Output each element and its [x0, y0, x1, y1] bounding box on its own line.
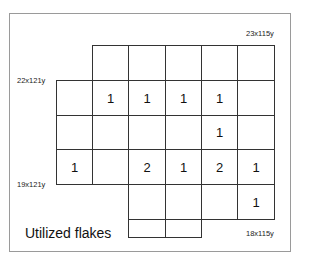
grid-cell [128, 45, 166, 81]
grid-cell: 1 [237, 149, 275, 185]
grid-cell [201, 184, 238, 220]
grid-cell [92, 149, 129, 185]
grid-cell [128, 184, 166, 220]
diagram-title: Utilized flakes [25, 225, 111, 241]
grid-cell: 1 [128, 80, 166, 116]
grid-cell: 1 [201, 80, 238, 116]
grid-cell [201, 45, 238, 81]
grid-cell: 1 [201, 115, 238, 150]
partial-grid-cell [165, 219, 202, 238]
grid-cell [165, 184, 202, 220]
grid-cell [237, 45, 275, 81]
grid-cell: 1 [165, 80, 202, 116]
grid-cell [56, 115, 93, 150]
grid-cell: 1 [92, 80, 129, 116]
corner-label-top-right: 23x115y [246, 29, 274, 38]
grid-cell [56, 80, 93, 116]
grid-cell [128, 115, 166, 150]
grid-cell: 1 [237, 184, 275, 220]
corner-label-bottom-right: 18x115y [246, 229, 274, 238]
partial-grid-cell [128, 219, 166, 238]
grid-cell: 1 [56, 149, 93, 185]
corner-label-bottom-left: 19x121y [17, 180, 45, 189]
corner-label-top-left: 22x121y [17, 76, 45, 85]
grid-cell: 2 [201, 149, 238, 185]
grid-cell [237, 80, 275, 116]
grid-cell [92, 45, 129, 81]
grid-cell [165, 45, 202, 81]
grid-cell [92, 115, 129, 150]
grid-cell: 2 [128, 149, 166, 185]
grid-cell [237, 115, 275, 150]
grid-cell: 1 [165, 149, 202, 185]
grid-cell [165, 115, 202, 150]
